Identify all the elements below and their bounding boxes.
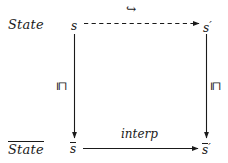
node-bottom-left: s	[70, 142, 76, 155]
node-top-right: s′	[203, 20, 212, 34]
node-bottom-right-prime: ′	[208, 141, 211, 154]
node-top-left: s	[71, 20, 77, 32]
row-label-state-bottom: State	[8, 141, 44, 156]
square-image-of-or-equal-icon-right: ⊑	[210, 81, 222, 91]
row-label-state-bottom-text: State	[8, 141, 44, 156]
node-bottom-right: s′	[202, 142, 211, 156]
node-top-left-base: s	[71, 19, 77, 33]
hook-right-arrow-icon: ↪	[126, 3, 136, 15]
square-image-of-or-equal-icon-left: ⊑	[56, 81, 68, 91]
commutative-diagram: State State s s′ s s′ ↪ interp ⊑ ⊑	[0, 0, 228, 163]
row-label-state-top: State	[8, 18, 44, 31]
interp-label: interp	[121, 128, 158, 140]
node-top-right-prime: ′	[209, 19, 212, 32]
node-bottom-left-base: s	[70, 142, 76, 155]
